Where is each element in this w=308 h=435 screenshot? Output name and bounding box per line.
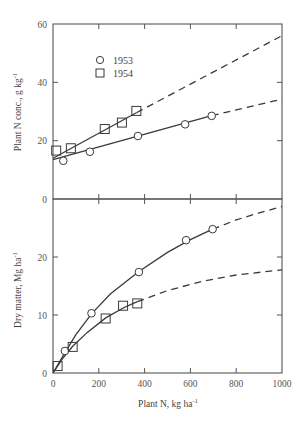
tick-labels: 02040600102002004006008001000 [38,20,292,390]
legend-label-1953: 1953 [113,55,133,66]
circle-marker-1953 [86,148,94,156]
y-tick-label: 20 [38,253,48,263]
legend-square-marker [96,69,104,77]
circle-marker-1953 [61,347,69,355]
legend-label-1954: 1954 [113,68,133,79]
bottom-plot-frame [53,199,282,373]
circle-marker-1953 [208,112,216,120]
x-tick-label: 200 [92,379,107,389]
dashed-extrapolation-1953 [212,99,282,115]
fit-line-1954 [53,113,136,159]
fit-curves [53,36,282,373]
legend-circle-marker [96,56,103,63]
top-plot-frame [53,24,282,199]
figure: 02040600102002004006008001000 1953 1954 … [0,0,308,435]
dashed-extrapolation-1954 [137,270,282,302]
top-y-axis-label: Plant N conc., g kg-1 [11,73,23,151]
circle-marker-1953 [88,309,96,317]
y-tick-label: 40 [38,78,48,88]
circle-marker-1953 [209,225,217,233]
x-tick-label: 1000 [273,379,292,389]
circle-marker-1953 [181,121,189,129]
x-tick-label: 600 [183,379,198,389]
x-tick-label: 0 [51,379,56,389]
y-tick-label: 0 [42,369,47,379]
dashed-extrapolation-1953 [213,207,282,230]
y-tick-label: 10 [38,311,48,321]
bottom-y-axis-label: Dry matter, Mg ha-1 [11,252,23,328]
y-tick-label: 0 [42,195,47,205]
axes-frame [53,24,282,373]
y-tick-label: 60 [38,20,48,30]
x-tick-label: 800 [229,379,244,389]
y-tick-label: 20 [38,136,48,146]
circle-marker-1953 [135,268,143,276]
x-axis-label: Plant N, kg ha-1 [138,397,198,409]
dashed-extrapolation-1954 [136,36,282,113]
x-tick-label: 400 [137,379,152,389]
circle-marker-1953 [60,157,68,165]
circle-marker-1953 [134,132,142,140]
circle-marker-1953 [182,236,190,244]
legend: 1953 1954 [96,55,133,79]
square-marker-1954 [119,301,128,310]
